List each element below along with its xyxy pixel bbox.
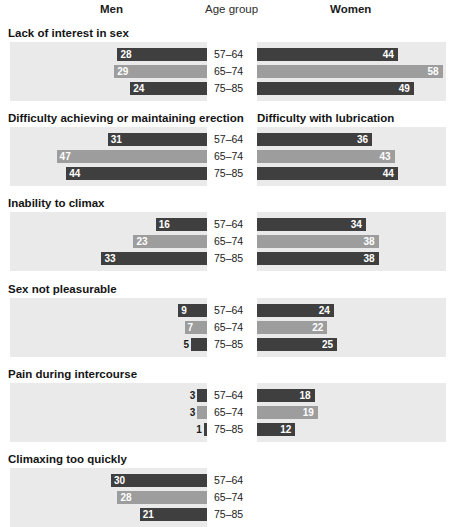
bar: 30: [111, 474, 207, 487]
age-group-label: 75–85: [214, 508, 254, 521]
bar-value-label: 33: [104, 252, 115, 265]
age-group-label: 65–74: [214, 321, 254, 334]
bar-value-label: 24: [319, 304, 330, 317]
bar: 19: [257, 406, 318, 419]
chart-header: Men Age group Women: [0, 0, 451, 22]
age-group-label: 65–74: [214, 491, 254, 504]
bar-value-label: 30: [114, 474, 125, 487]
age-group-label: 65–74: [214, 406, 254, 419]
bar: 31: [108, 133, 207, 146]
bar-row: 22: [257, 321, 446, 334]
bar-row: 38: [257, 235, 446, 248]
bar-panel-left: 331: [10, 383, 207, 442]
bar-row: 25: [257, 338, 446, 351]
bar-row: 34: [257, 218, 446, 231]
bar-row: 7: [10, 321, 207, 334]
bar-value-label: 9: [181, 304, 187, 317]
bar-row: 28: [10, 48, 207, 61]
bar-row: 28: [10, 491, 207, 504]
bar: 38: [257, 235, 379, 248]
age-group-label: 57–64: [214, 389, 254, 402]
bar-panel-left: 302821: [10, 468, 207, 527]
bar-row: 36: [257, 133, 446, 146]
bar-row: 12: [257, 423, 446, 436]
age-group-label: 57–64: [214, 218, 254, 231]
bar-value-label: 38: [363, 252, 374, 265]
bar-row: 18: [257, 389, 446, 402]
age-group-label: 75–85: [214, 423, 254, 436]
bar: 43: [257, 150, 395, 163]
bar-row: 19: [257, 406, 446, 419]
bar-row: 24: [257, 304, 446, 317]
bar-row: 30: [10, 474, 207, 487]
bar: 24: [257, 304, 334, 317]
bar: 44: [66, 167, 207, 180]
bar-value-label: 16: [159, 218, 170, 231]
bar-row: 47: [10, 150, 207, 163]
bar: 1: [204, 423, 207, 436]
bar-value-label: 7: [188, 321, 194, 334]
bar-row: 9: [10, 304, 207, 317]
bar-row: 3: [10, 406, 207, 419]
bar-value-label: 3: [190, 406, 196, 419]
age-group-label: 57–64: [214, 48, 254, 61]
bar-row: 43: [257, 150, 446, 163]
bar: 49: [257, 82, 414, 95]
bar-panel-left: 162333: [10, 212, 207, 271]
bar-row: 58: [257, 65, 446, 78]
bar-value-label: 58: [427, 65, 438, 78]
bar-row: 24: [10, 82, 207, 95]
bar-row: 23: [10, 235, 207, 248]
bar-value-label: 44: [383, 48, 394, 61]
bar-panel-left: 314744: [10, 127, 207, 186]
age-group-label: 75–85: [214, 338, 254, 351]
bar: 24: [130, 82, 207, 95]
bar: 16: [156, 218, 207, 231]
age-group-label: 75–85: [214, 82, 254, 95]
bar-value-label: 44: [69, 167, 80, 180]
bar: 18: [257, 389, 315, 402]
bar-value-label: 21: [143, 508, 154, 521]
bar-value-label: 28: [120, 491, 131, 504]
bar-value-label: 18: [299, 389, 310, 402]
age-group-label: 75–85: [214, 252, 254, 265]
column-header-men: Men: [100, 2, 123, 16]
bar-row: 29: [10, 65, 207, 78]
bar-value-label: 31: [111, 133, 122, 146]
bar-value-label: 34: [351, 218, 362, 231]
bar: 12: [257, 423, 295, 436]
bar: 47: [57, 150, 207, 163]
bar-value-label: 5: [183, 338, 189, 351]
bar-value-label: 43: [379, 150, 390, 163]
bar-row: 21: [10, 508, 207, 521]
bar-value-label: 49: [399, 82, 410, 95]
bar-panel-right: 343838: [257, 212, 446, 271]
bar-row: 38: [257, 252, 446, 265]
bar-value-label: 44: [383, 167, 394, 180]
section-title-men: Inability to climax: [8, 196, 105, 210]
bar: 58: [257, 65, 443, 78]
age-group-label: 65–74: [214, 150, 254, 163]
bar: 44: [257, 167, 398, 180]
section-title-men: Pain during intercourse: [8, 367, 137, 381]
age-group-label: 57–64: [214, 474, 254, 487]
bar-value-label: 23: [136, 235, 147, 248]
column-header-age-group: Age group: [205, 2, 258, 16]
bar: 38: [257, 252, 379, 265]
column-header-women: Women: [330, 2, 371, 16]
bar-panel-left: 975: [10, 298, 207, 357]
bar-panel-right: 445849: [257, 42, 446, 101]
bar: 36: [257, 133, 372, 146]
bar-row: 33: [10, 252, 207, 265]
bar: 22: [257, 321, 327, 334]
age-group-label: 75–85: [214, 167, 254, 180]
age-group-label: 57–64: [214, 133, 254, 146]
bar-row: 5: [10, 338, 207, 351]
bar-value-label: 28: [120, 48, 131, 61]
bar: 28: [117, 491, 207, 504]
bar-value-label: 29: [117, 65, 128, 78]
age-group-label: 57–64: [214, 304, 254, 317]
bar-value-label: 12: [280, 423, 291, 436]
bar: 28: [117, 48, 207, 61]
bar-row: 49: [257, 82, 446, 95]
